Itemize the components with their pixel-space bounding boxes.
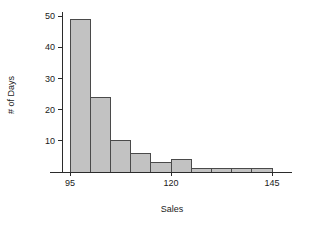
y-tick-label: 50 <box>45 11 55 21</box>
histogram-bar <box>90 97 110 172</box>
bars-group <box>70 19 272 172</box>
x-tick-label: 95 <box>65 178 75 188</box>
histogram-bar <box>171 160 191 172</box>
y-tick-label: 30 <box>45 74 55 84</box>
y-tick-label: 10 <box>45 136 55 146</box>
y-tick-group: 1020304050 <box>45 11 62 146</box>
y-tick-label: 40 <box>45 42 55 52</box>
x-tick-group: 95120145 <box>65 172 280 188</box>
histogram-chart: 1020304050 95120145 Sales # of Days <box>0 0 310 225</box>
histogram-bar <box>131 153 151 172</box>
histogram-bar <box>151 163 171 172</box>
x-tick-label: 120 <box>163 178 178 188</box>
x-tick-label: 145 <box>264 178 279 188</box>
chart-canvas: 1020304050 95120145 Sales # of Days <box>0 0 310 225</box>
y-axis-title: # of Days <box>6 75 16 114</box>
histogram-bar <box>70 19 90 172</box>
x-axis-title: Sales <box>161 204 184 214</box>
histogram-bar <box>110 141 130 172</box>
y-tick-label: 20 <box>45 105 55 115</box>
